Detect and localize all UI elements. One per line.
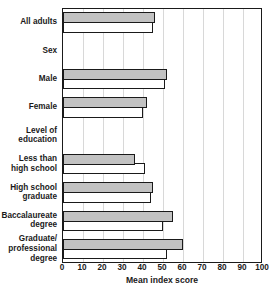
bar	[63, 78, 165, 89]
x-tick-100: 100	[255, 263, 269, 272]
bar	[63, 239, 183, 250]
y-axis-category-labels: All adultsSexMaleFemaleLevel of educatio…	[0, 8, 57, 263]
plot-area	[62, 8, 262, 263]
x-tick-10: 10	[77, 263, 86, 272]
x-tick-80: 80	[217, 263, 226, 272]
x-tick-30: 30	[117, 263, 126, 272]
y-axis-label: All adults	[0, 17, 57, 27]
bar	[63, 248, 167, 259]
bar	[63, 22, 153, 33]
bar	[63, 107, 143, 118]
x-tick-40: 40	[137, 263, 146, 272]
y-axis-label: Sex	[0, 46, 57, 56]
y-axis-label: Less than high school	[0, 154, 57, 173]
bar-chart-figure: All adultsSexMaleFemaleLevel of educatio…	[0, 0, 276, 290]
bar	[63, 154, 135, 165]
x-tick-0: 0	[60, 263, 65, 272]
bar	[63, 163, 145, 174]
x-tick-50: 50	[157, 263, 166, 272]
x-axis-tick-labels: 0102030405060708090100	[62, 263, 262, 275]
y-axis-label: Male	[0, 74, 57, 84]
y-axis-label: Graduate/ professional degree	[0, 234, 57, 263]
bar	[63, 211, 173, 222]
y-axis-label: Baccalaureate degree	[0, 211, 57, 230]
x-tick-70: 70	[197, 263, 206, 272]
bar	[63, 97, 147, 108]
x-tick-90: 90	[237, 263, 246, 272]
x-axis-title: Mean index score	[62, 275, 262, 285]
bar	[63, 220, 163, 231]
bar	[63, 69, 167, 80]
bar	[63, 12, 155, 23]
y-axis-label: Level of education	[0, 126, 57, 145]
bars-layer	[63, 9, 261, 262]
x-tick-60: 60	[177, 263, 186, 272]
bar	[63, 192, 151, 203]
bar	[63, 182, 153, 193]
y-axis-label: Female	[0, 102, 57, 112]
x-tick-20: 20	[97, 263, 106, 272]
y-axis-label: High school graduate	[0, 183, 57, 202]
